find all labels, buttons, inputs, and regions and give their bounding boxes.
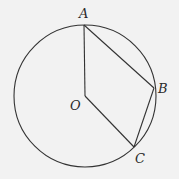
geometry-diagram: A B C O xyxy=(0,0,179,179)
segment-bc xyxy=(134,88,154,147)
label-b: B xyxy=(157,81,168,96)
segment-oc xyxy=(85,96,134,147)
segment-ao xyxy=(84,25,85,96)
label-c: C xyxy=(135,151,145,166)
label-a: A xyxy=(78,6,88,21)
label-o: O xyxy=(70,98,81,113)
